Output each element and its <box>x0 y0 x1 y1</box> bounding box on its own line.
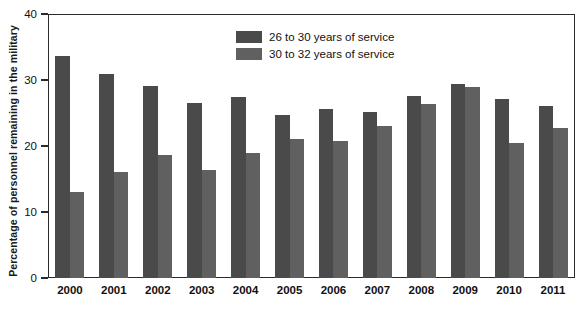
bar <box>158 155 173 278</box>
bar <box>553 128 568 278</box>
bar-group <box>55 14 84 278</box>
bar <box>495 99 510 278</box>
y-axis-tick-mark <box>41 211 48 213</box>
x-axis-tick-label: 2006 <box>312 284 356 296</box>
bar <box>319 109 334 278</box>
y-axis-tick-mark <box>41 79 48 81</box>
y-axis-tick-label: 0 <box>0 272 37 284</box>
bar <box>465 87 480 278</box>
bar <box>187 103 202 278</box>
bar <box>539 106 554 278</box>
bar <box>509 143 524 278</box>
bar <box>451 84 466 278</box>
x-axis-tick-label: 2001 <box>92 284 136 296</box>
bar <box>421 104 436 278</box>
x-axis-labels: 2000200120022003200420052006200720082009… <box>48 284 575 304</box>
y-axis-tick-mark <box>41 277 48 279</box>
legend-item: 26 to 30 years of service <box>236 29 446 44</box>
x-axis-tick-label: 2008 <box>399 284 443 296</box>
y-axis-tick-mark <box>41 145 48 147</box>
y-axis-tick-label: 30 <box>0 74 37 86</box>
bar <box>70 192 85 278</box>
bar-group <box>539 14 568 278</box>
y-axis-tick-label: 20 <box>0 140 37 152</box>
bar <box>114 172 129 278</box>
bar-group <box>99 14 128 278</box>
bar-group <box>187 14 216 278</box>
legend-swatch <box>236 48 262 60</box>
bar <box>143 86 158 278</box>
bar <box>290 139 305 278</box>
x-axis-tick-label: 2004 <box>224 284 268 296</box>
x-axis-tick-label: 2002 <box>136 284 180 296</box>
bar <box>99 74 114 278</box>
x-axis-tick-label: 2009 <box>443 284 487 296</box>
x-axis-tick-label: 2005 <box>268 284 312 296</box>
bar <box>363 112 378 278</box>
x-axis-tick-label: 2007 <box>355 284 399 296</box>
bar-group <box>451 14 480 278</box>
x-axis-tick-label: 2011 <box>531 284 575 296</box>
legend-item: 30 to 32 years of service <box>236 46 446 61</box>
y-axis-tick-label: 10 <box>0 206 37 218</box>
x-axis-tick-label: 2010 <box>487 284 531 296</box>
bar <box>377 126 392 278</box>
chart-legend: 26 to 30 years of service30 to 32 years … <box>236 29 446 63</box>
legend-swatch <box>236 31 262 43</box>
bar <box>275 115 290 278</box>
bar <box>333 141 348 278</box>
bar <box>202 170 217 278</box>
bar-chart: Percentage of personnel remaining in the… <box>0 0 583 311</box>
legend-label: 30 to 32 years of service <box>269 48 394 60</box>
bar <box>246 153 261 278</box>
y-axis-tick-mark <box>41 13 48 15</box>
legend-label: 26 to 30 years of service <box>269 31 394 43</box>
bar-group <box>495 14 524 278</box>
bar <box>55 56 70 278</box>
y-axis-tick-label: 40 <box>0 8 37 20</box>
bar <box>231 97 246 278</box>
bar <box>407 96 422 278</box>
x-axis-tick-label: 2000 <box>48 284 92 296</box>
x-axis-tick-label: 2003 <box>180 284 224 296</box>
bar-group <box>143 14 172 278</box>
